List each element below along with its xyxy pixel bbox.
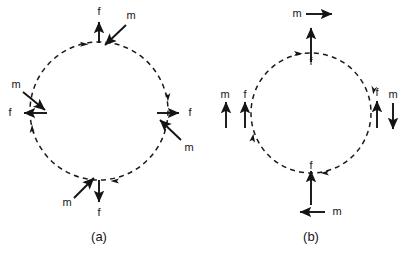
panel-a-dashed-circle bbox=[30, 42, 168, 180]
panel-a-moment-label-right: m bbox=[184, 141, 193, 153]
panel-a-force-label-right: f bbox=[188, 106, 192, 118]
panel-a-caption: (a) bbox=[91, 229, 107, 244]
panel-b-station-top: f m bbox=[292, 7, 332, 67]
panel-a: f m f m f m bbox=[8, 5, 193, 245]
panel-b-tangent-arrowhead-bottom bbox=[321, 171, 330, 176]
panel-b-moment-label-top: m bbox=[292, 7, 301, 19]
figure-container: f m f m f m bbox=[0, 0, 402, 255]
panel-b-force-label-left: f bbox=[243, 88, 247, 100]
panel-a-station-top: f m bbox=[80, 5, 136, 47]
panel-a-moment-label-left: m bbox=[11, 78, 20, 90]
panel-b: f m f m f m bbox=[220, 7, 397, 245]
panel-a-station-left: f m bbox=[8, 78, 47, 133]
free-body-diagram: f m f m f m bbox=[0, 0, 402, 255]
panel-a-station-right: f m bbox=[157, 93, 194, 153]
panel-b-station-left: f m bbox=[220, 88, 255, 142]
panel-a-moment-label-bottom: m bbox=[62, 196, 71, 208]
panel-b-dashed-circle bbox=[251, 53, 371, 173]
panel-a-force-label-top: f bbox=[97, 5, 101, 17]
panel-b-tangent-arrowhead-top bbox=[294, 51, 303, 56]
panel-a-moment-arrow-left bbox=[23, 92, 45, 110]
panel-b-caption: (b) bbox=[303, 229, 319, 244]
panel-a-tangent-arrowhead-left bbox=[30, 125, 35, 134]
panel-b-tangent-arrowhead-left bbox=[249, 134, 255, 143]
panel-b-force-label-top: f bbox=[309, 55, 313, 67]
panel-a-force-label-bottom: f bbox=[97, 206, 101, 218]
panel-a-force-label-left: f bbox=[8, 106, 12, 118]
panel-b-moment-label-left: m bbox=[220, 88, 229, 100]
panel-b-station-right: f m bbox=[372, 86, 398, 130]
panel-b-moment-label-bottom: m bbox=[332, 205, 341, 217]
panel-a-moment-arrow-right bbox=[160, 120, 181, 140]
panel-b-force-label-bottom: f bbox=[309, 159, 313, 171]
panel-b-force-label-right: f bbox=[375, 86, 379, 98]
panel-a-moment-label-top: m bbox=[126, 9, 135, 21]
panel-b-moment-label-right: m bbox=[388, 88, 397, 100]
panel-a-moment-arrow-bottom bbox=[74, 178, 94, 198]
panel-a-station-bottom: f m bbox=[62, 178, 119, 218]
panel-a-moment-arrow-top bbox=[105, 25, 126, 45]
